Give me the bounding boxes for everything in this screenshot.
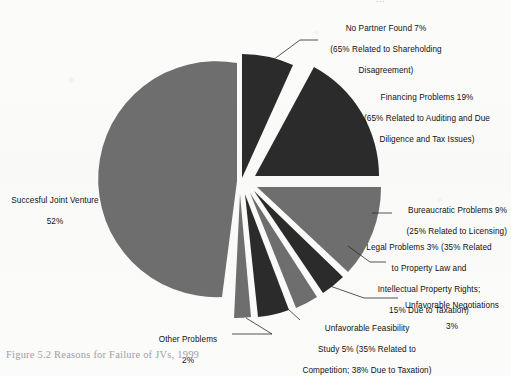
label-line: Succesful Joint Venture xyxy=(11,196,98,205)
label-line: Other Problems xyxy=(159,335,217,344)
label-line: Diligence and Tax Issues) xyxy=(379,135,474,144)
label-line: (65% Related to Shareholding xyxy=(330,45,442,54)
slice-label-unfavorable-feasibility-study: Unfavorable Feasibility Study 5% (35% Re… xyxy=(282,314,452,376)
figure-caption: Figure 5.2 Reasons for Failure of JVs, 1… xyxy=(6,349,326,364)
label-line: Bureaucratic Problems 9% xyxy=(408,206,507,215)
label-line: Unfavorable Negotiations xyxy=(405,301,499,310)
label-line: Unfavorable Feasibility xyxy=(325,324,410,333)
slice-label-succesful-joint-venture: Succesful Joint Venture 52% xyxy=(3,186,107,228)
pie-slice-succesful-joint-venture xyxy=(98,61,237,297)
slice-label-bureaucratic-problems: Bureaucratic Problems 9% (25% Related to… xyxy=(352,196,507,238)
label-line: (65% Related to Auditing and Due xyxy=(364,114,490,123)
slice-label-no-partner-found: No Partner Found 7% (65% Related to Shar… xyxy=(306,14,466,76)
label-line: Financing Problems 19% xyxy=(381,93,474,102)
label-line: No Partner Found 7% xyxy=(346,24,427,33)
label-line: Competition; 38% Due to Taxation) xyxy=(302,366,431,375)
slice-label-financing-problems: Financing Problems 19% (65% Related to A… xyxy=(348,83,506,145)
label-line: Legal Problems 3% (35% Related xyxy=(366,243,491,252)
leader-line-other-problems xyxy=(232,318,272,334)
label-line: Study 5% (35% Related to xyxy=(318,345,416,354)
label-line: 52% xyxy=(47,217,64,226)
label-line: to Property Law and xyxy=(392,264,467,273)
label-line: Disagreement) xyxy=(359,66,414,75)
